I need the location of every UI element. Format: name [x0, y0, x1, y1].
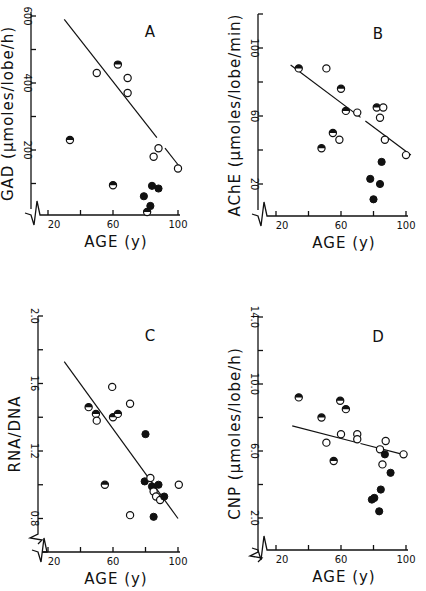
y-tick-label: 20	[249, 178, 260, 191]
data-point-half	[337, 397, 344, 404]
data-point-half	[92, 410, 99, 417]
panel-label: C	[145, 327, 155, 345]
axis-break-mark	[25, 201, 42, 225]
x-tick-label: 100	[396, 554, 415, 565]
data-point-open	[354, 109, 361, 116]
data-point-half	[101, 481, 108, 488]
y-tick-label: 400	[22, 73, 33, 92]
data-point-open	[124, 74, 131, 81]
data-point-open	[354, 436, 361, 443]
y-tick-label: 0.8	[29, 511, 40, 527]
data-point-open	[174, 165, 181, 172]
panel-d-cnp-chart: 2.06.010.014.02060100AGE (y)CNP (µmoles/…	[226, 306, 416, 586]
data-point-open	[155, 145, 162, 152]
data-point-filled	[377, 486, 384, 493]
data-point-filled	[370, 196, 377, 203]
data-point-filled	[371, 494, 378, 501]
data-point-filled	[142, 431, 149, 438]
panel-b-ache-chart: 20601002060100AGE (y)AChE (µmoles/lobe/m…	[226, 14, 416, 252]
x-tick-label: 20	[48, 556, 61, 567]
regression-line	[165, 148, 180, 167]
data-point-half	[318, 145, 325, 152]
data-point-half	[66, 136, 73, 143]
data-point-open	[380, 104, 387, 111]
y-tick-label: 6.0	[249, 443, 260, 459]
data-point-open	[376, 114, 383, 121]
data-point-open	[147, 474, 154, 481]
data-point-filled	[376, 508, 383, 515]
x-axis-title: AGE (y)	[84, 233, 147, 251]
y-tick-label: 2.0	[29, 308, 40, 324]
data-point-open	[93, 417, 100, 424]
y-axis-title: GAD (µmoles/lobe/h)	[0, 26, 17, 201]
y-tick-label: 200	[22, 140, 33, 159]
x-tick-label: 60	[335, 554, 348, 565]
data-point-open	[379, 461, 386, 468]
data-point-open	[337, 431, 344, 438]
data-point-open	[402, 152, 409, 159]
data-point-filled	[381, 451, 388, 458]
data-point-filled	[378, 158, 385, 165]
x-tick-label: 20	[276, 220, 289, 231]
panel-label: D	[372, 328, 384, 346]
data-point-filled	[150, 513, 157, 520]
x-tick-label: 20	[276, 554, 289, 565]
x-tick-label: 100	[168, 219, 187, 230]
regression-line	[64, 19, 157, 137]
data-point-open	[124, 89, 131, 96]
y-axis-title: AChE (µmoles/lobe/min)	[226, 14, 244, 217]
data-point-half	[330, 457, 337, 464]
data-point-filled	[161, 493, 168, 500]
panel-label: B	[373, 25, 383, 43]
data-point-open	[109, 383, 116, 390]
x-tick-label: 100	[168, 556, 187, 567]
y-tick-label: 600	[22, 6, 33, 25]
x-tick-label: 60	[335, 220, 348, 231]
data-point-half	[144, 208, 151, 215]
axis-break-mark	[252, 202, 270, 226]
data-point-open	[400, 451, 407, 458]
data-point-open	[93, 69, 100, 76]
data-point-filled	[155, 481, 162, 488]
data-point-open	[126, 512, 133, 519]
data-point-filled	[140, 193, 147, 200]
data-point-open	[175, 481, 182, 488]
y-axis-break-mark	[30, 530, 42, 544]
data-point-filled	[367, 175, 374, 182]
y-tick-label: 14.0	[249, 306, 260, 328]
data-point-open	[336, 136, 343, 143]
data-point-filled	[376, 180, 383, 187]
data-point-open	[382, 437, 389, 444]
data-point-half	[295, 394, 302, 401]
data-point-open	[126, 400, 133, 407]
data-point-half	[85, 404, 92, 411]
data-point-half	[109, 182, 116, 189]
x-tick-label: 20	[48, 219, 61, 230]
x-tick-label: 60	[107, 556, 120, 567]
y-axis-title: RNA/DNA	[6, 396, 24, 473]
data-point-half	[318, 414, 325, 421]
y-axis-break-mark	[250, 548, 262, 562]
y-tick-label: 60	[249, 110, 260, 123]
data-point-half	[342, 107, 349, 114]
data-point-open	[150, 153, 157, 160]
panel-c-rna-dna-chart: 0.81.21.62.02060100AGE (y)RNA/DNAC	[6, 308, 188, 588]
data-point-half	[342, 406, 349, 413]
data-point-half	[295, 65, 302, 72]
x-axis-title: AGE (y)	[312, 568, 375, 586]
regression-line	[291, 65, 361, 117]
y-tick-label: 1.2	[29, 443, 40, 459]
data-point-half	[329, 129, 336, 136]
panel-a-gad-chart: 2004006002060100AGE (y)GAD (µmoles/lobe/…	[0, 6, 188, 251]
data-point-half	[114, 410, 121, 417]
data-point-open	[381, 136, 388, 143]
data-point-filled	[387, 469, 394, 476]
y-tick-label: 2.0	[249, 510, 260, 526]
y-tick-label: 10.0	[249, 373, 260, 395]
data-point-half	[114, 61, 121, 68]
data-point-half	[337, 85, 344, 92]
y-tick-label: 1.6	[29, 376, 40, 392]
x-axis-title: AGE (y)	[84, 570, 147, 588]
data-point-open	[323, 65, 330, 72]
figure: 2004006002060100AGE (y)GAD (µmoles/lobe/…	[0, 0, 426, 591]
